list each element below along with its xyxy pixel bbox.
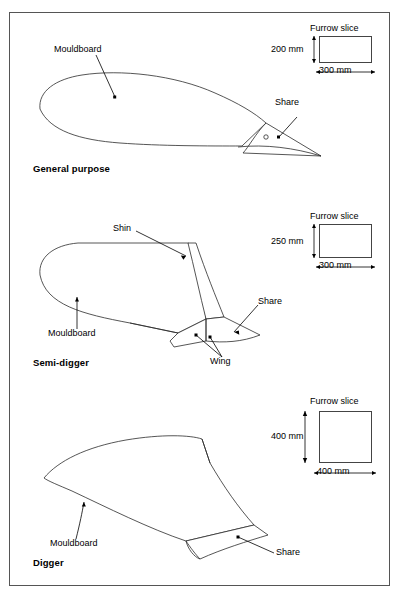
figure-frame: Mouldboard Share General purpose Furrow … — [9, 12, 390, 586]
depth-arrow-head-top — [303, 411, 307, 416]
furrow-dimension-arrows — [10, 389, 391, 587]
width-arrow-head-left — [314, 471, 318, 475]
width-arrow-head-left — [316, 265, 320, 269]
depth-arrow-head-top — [312, 224, 316, 228]
panel-semi-digger: Shin Mouldboard Share Wing Semi-digger F… — [10, 201, 389, 389]
furrow-dimension-arrows — [10, 13, 391, 201]
panel-digger: Mouldboard Share Digger Furrow slice 400… — [10, 389, 389, 587]
panel-general-purpose: Mouldboard Share General purpose Furrow … — [10, 13, 389, 201]
depth-arrow-head-bottom — [303, 458, 307, 463]
depth-arrow-head-bottom — [312, 59, 316, 63]
depth-arrow-head-top — [312, 36, 316, 40]
width-arrow-head-right — [372, 471, 376, 475]
furrow-dimension-arrows — [10, 201, 391, 389]
depth-arrow-head-bottom — [312, 254, 316, 258]
width-arrow-head-right — [371, 265, 375, 269]
width-arrow-head-right — [371, 70, 375, 74]
width-arrow-head-left — [316, 70, 320, 74]
